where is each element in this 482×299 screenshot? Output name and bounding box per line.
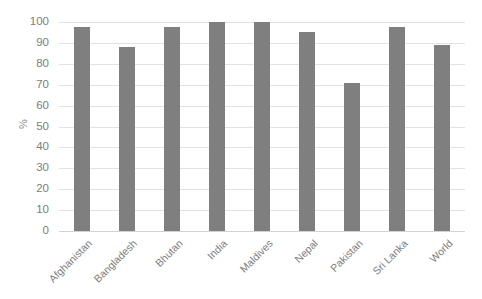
x-tick-label: Afghanistan	[46, 237, 94, 285]
x-axis-tick-labels: AfghanistanBangladeshBhutanIndiaMaldives…	[59, 233, 465, 295]
bar	[344, 83, 360, 231]
y-tick-label: 90	[36, 37, 49, 49]
x-tick-label: Maldives	[237, 237, 275, 275]
x-tick-label: Pakistan	[328, 237, 365, 274]
bar	[434, 45, 450, 231]
y-tick-label: 80	[36, 58, 49, 70]
y-tick-label: 60	[36, 100, 49, 112]
x-tick-label: Nepal	[292, 237, 320, 265]
y-tick-label: 30	[36, 163, 49, 175]
x-axis-baseline	[59, 231, 465, 232]
y-tick-label: 50	[36, 121, 49, 133]
bar	[164, 27, 180, 231]
y-tick-label: 100	[30, 16, 49, 28]
bars-layer	[59, 22, 465, 231]
x-tick-label: Bangladesh	[91, 237, 139, 285]
bar	[254, 22, 270, 231]
bar	[209, 22, 225, 231]
x-tick-label: Sri Lanka	[370, 237, 410, 277]
bar-chart: % 100 90 80 70 60 50 40 30 20 10 0 Afgha…	[0, 0, 482, 299]
y-tick-label: 40	[36, 142, 49, 154]
bar	[74, 27, 90, 231]
x-tick-label: India	[205, 237, 230, 262]
y-tick-label: 10	[36, 204, 49, 216]
y-tick-label: 20	[36, 183, 49, 195]
bar	[389, 27, 405, 231]
x-tick-label: Bhutan	[152, 237, 184, 269]
y-tick-label: 70	[36, 79, 49, 91]
bar	[119, 47, 135, 231]
bar	[299, 32, 315, 231]
y-axis-tick-labels: 100 90 80 70 60 50 40 30 20 10 0	[0, 22, 55, 231]
y-tick-label: 0	[43, 225, 49, 237]
x-tick-label: World	[427, 237, 455, 265]
